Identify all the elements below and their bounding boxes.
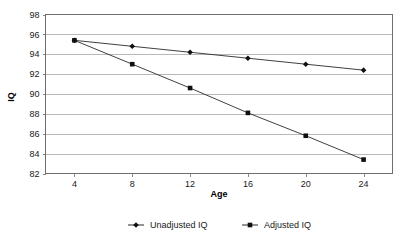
y-tick-label-90: 90 — [29, 89, 39, 99]
legend-label-2: Adjusted IQ — [264, 220, 311, 230]
chart-background — [0, 0, 413, 243]
y-tick-label-94: 94 — [29, 49, 39, 59]
x-tick-label-20: 20 — [301, 179, 311, 189]
data-point-2-8 — [130, 62, 135, 67]
y-tick-label-82: 82 — [29, 169, 39, 179]
data-point-2-16 — [246, 111, 251, 116]
y-tick-labels-group: 828486889092949698 — [29, 10, 39, 179]
data-point-2-12 — [188, 86, 193, 91]
x-tick-label-4: 4 — [72, 179, 77, 189]
iq-by-age-line-chart: 828486889092949698 4812162024 Age IQ Una… — [0, 0, 413, 243]
legend-label-1: Unadjusted IQ — [150, 220, 208, 230]
x-tick-label-12: 12 — [185, 179, 195, 189]
data-point-2-4 — [72, 38, 77, 43]
x-tick-label-24: 24 — [359, 179, 369, 189]
x-tick-label-16: 16 — [243, 179, 253, 189]
y-tick-label-98: 98 — [29, 10, 39, 20]
y-tick-label-86: 86 — [29, 129, 39, 139]
x-tick-label-8: 8 — [130, 179, 135, 189]
data-point-2-24 — [361, 157, 366, 162]
y-tick-label-96: 96 — [29, 30, 39, 40]
chart-container: 828486889092949698 4812162024 Age IQ Una… — [0, 0, 413, 243]
y-tick-label-84: 84 — [29, 149, 39, 159]
x-axis-title: Age — [210, 189, 227, 199]
y-tick-label-88: 88 — [29, 109, 39, 119]
y-axis-title: IQ — [6, 92, 16, 102]
y-tick-label-92: 92 — [29, 69, 39, 79]
data-point-2-20 — [303, 133, 308, 138]
legend-marker-square — [248, 223, 253, 228]
